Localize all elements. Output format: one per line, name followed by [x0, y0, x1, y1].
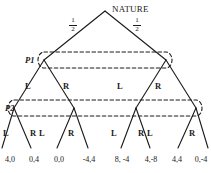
chance-probability-right: 1 2	[130, 17, 144, 33]
terminal-edge-4	[74, 108, 88, 148]
terminal-edge-8	[196, 108, 208, 148]
chance-probability-left-numerator: 1	[66, 17, 80, 25]
payoff-4: -4,4	[77, 156, 101, 164]
p1-right-edge-R	[166, 60, 196, 108]
game-tree-figure: NATURE 1 2 1 2 P1 P2 L R L R L R L R L R…	[0, 0, 211, 173]
tier3-action-3: L	[39, 129, 45, 138]
payoff-6: 4,-8	[139, 156, 163, 164]
p1-right-edge-L	[136, 60, 166, 108]
terminal-edge-2	[14, 108, 31, 148]
tier3-action-1: L	[3, 129, 9, 138]
game-tree-edges	[0, 0, 211, 173]
payoff-3: 0,0	[49, 156, 69, 164]
nature-label: NATURE	[112, 5, 149, 14]
payoff-1: 4,0	[0, 156, 20, 164]
p1-information-set-outline	[38, 52, 172, 68]
terminal-edge-5	[121, 108, 136, 148]
tier2-action-3: L	[117, 82, 123, 91]
chance-probability-left-denominator: 2	[66, 26, 80, 34]
p1-right-edges	[136, 60, 196, 108]
chance-probability-right-denominator: 2	[130, 26, 144, 34]
player2-label: P2	[5, 104, 14, 113]
tier3-action-5: L	[111, 129, 117, 138]
tier2-action-1: L	[25, 82, 31, 91]
tier3-action-4: R	[68, 129, 74, 138]
p2-information-set-outline	[8, 100, 202, 116]
p1-information-set	[38, 52, 172, 68]
payoff-5: 8, -4	[110, 156, 134, 164]
tier3-action-2: R	[30, 129, 36, 138]
tier3-action-8: R	[189, 129, 195, 138]
player1-label: P1	[25, 56, 34, 65]
chance-edges	[44, 11, 166, 60]
p2-information-set	[8, 100, 202, 116]
tier3-action-6: R	[138, 129, 144, 138]
p1-left-edge-R	[44, 60, 74, 108]
payoff-7: 4,4	[166, 156, 188, 164]
tier2-action-2: R	[63, 82, 69, 91]
tier3-action-7: L	[147, 129, 153, 138]
payoff-8: 0,-4	[191, 156, 211, 164]
chance-probability-right-numerator: 1	[130, 17, 144, 25]
tier2-action-4: R	[155, 82, 161, 91]
payoff-2: 0,4	[24, 156, 44, 164]
chance-probability-left: 1 2	[66, 17, 80, 33]
